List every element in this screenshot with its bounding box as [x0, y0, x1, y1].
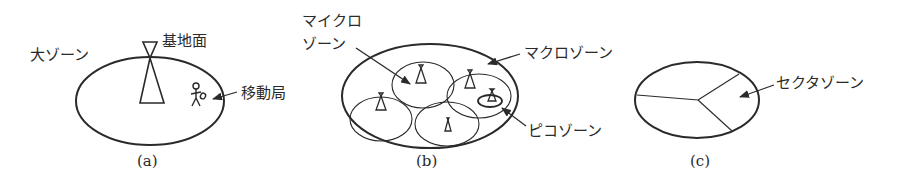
- large-zone-label: 大ゾーン: [30, 46, 89, 64]
- large-zone-ellipse: [76, 57, 224, 145]
- pico-zone-label: ピコゾーン: [528, 122, 602, 140]
- mobile-station-person-icon: [191, 83, 207, 106]
- base-station-tower-icon: [140, 42, 164, 103]
- micro-zone-ellipses: [350, 62, 511, 146]
- macro-zone-label: マクロゾーン: [524, 44, 613, 62]
- caption-c: (c): [690, 152, 710, 170]
- sector-zone-label: セクタゾーン: [776, 74, 864, 92]
- caption-a: (a): [137, 152, 158, 170]
- micro-zone-arrow: [356, 48, 410, 84]
- cell-zone-diagram: 大ゾーン 基地面 移動局 (a) マイクロ ゾーン マクロゾーン ピコゾーン (: [0, 0, 903, 193]
- panel-a: 大ゾーン 基地面 移動局 (a): [30, 32, 286, 170]
- panel-c: セクタゾーン (c): [635, 62, 864, 170]
- base-station-label: 基地面: [162, 32, 207, 50]
- caption-b: (b): [416, 152, 437, 170]
- panel-b: マイクロ ゾーン マクロゾーン ピコゾーン (b): [302, 12, 613, 170]
- antenna-icons: [376, 65, 496, 131]
- sector-boundaries: [637, 74, 739, 131]
- macro-zone-ellipse: [342, 44, 518, 148]
- micro-zone-label-line2: ゾーン: [302, 35, 346, 53]
- micro-zone-label-line1: マイクロ: [302, 12, 362, 30]
- mobile-arrow: [213, 92, 237, 99]
- sector-zone-arrow: [740, 85, 774, 97]
- mobile-station-label: 移動局: [241, 84, 286, 102]
